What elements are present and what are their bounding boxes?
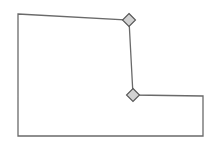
polygon-outline[interactable] bbox=[18, 14, 203, 136]
editor-canvas[interactable] bbox=[0, 0, 216, 146]
vertex-handle-elbow[interactable] bbox=[127, 89, 140, 102]
vertex-handle-top[interactable] bbox=[123, 14, 136, 27]
shape-svg-layer bbox=[0, 0, 216, 146]
